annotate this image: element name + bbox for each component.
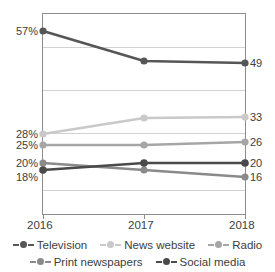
- value-label-right-print-newspapers: 16: [250, 172, 262, 183]
- value-label-right-social-media: 20: [250, 158, 262, 169]
- value-label-right-news-website: 33: [250, 112, 262, 123]
- legend-row-1: Television News website Radio: [0, 236, 275, 253]
- legend-marker-icon: [30, 257, 51, 266]
- legend-label-social-media: Social media: [180, 256, 246, 268]
- legend-item-television[interactable]: Television: [13, 239, 88, 251]
- legend-item-radio[interactable]: Radio: [208, 239, 262, 251]
- legend-label-television: Television: [37, 239, 88, 251]
- x-axis-label-2016: 2016: [27, 219, 53, 231]
- legend-item-print-newspapers[interactable]: Print newspapers: [30, 256, 143, 268]
- legend-marker-icon: [156, 257, 177, 266]
- legend-item-news-website[interactable]: News website: [100, 239, 195, 251]
- legend-label-news-website: News website: [124, 239, 195, 251]
- series-television: [39, 27, 248, 66]
- series-radio: [39, 138, 248, 148]
- x-axis-label-2018: 2018: [229, 219, 255, 231]
- legend-marker-icon: [13, 240, 34, 249]
- value-label-right-radio: 26: [250, 137, 262, 148]
- line-chart: 57% 28% 25% 20% 18% 49 33 26 20 16 2016 …: [0, 0, 275, 272]
- legend-row-2: Print newspapers Social media: [0, 253, 275, 270]
- value-label-left-television: 57%: [16, 26, 42, 37]
- value-label-left-social-media: 18%: [16, 172, 42, 183]
- legend-label-print-newspapers: Print newspapers: [54, 256, 143, 268]
- legend-marker-icon: [208, 240, 229, 249]
- chart-legend: Television News website Radio: [0, 236, 275, 270]
- value-label-left-radio: 25%: [16, 140, 42, 151]
- legend-marker-icon: [100, 240, 121, 249]
- x-axis-label-2017: 2017: [128, 219, 154, 231]
- legend-item-social-media[interactable]: Social media: [156, 256, 246, 268]
- value-label-left-print-newspapers: 20%: [16, 158, 42, 169]
- series-news-website: [39, 113, 248, 137]
- value-label-right-television: 49: [250, 58, 262, 69]
- legend-label-radio: Radio: [232, 239, 262, 251]
